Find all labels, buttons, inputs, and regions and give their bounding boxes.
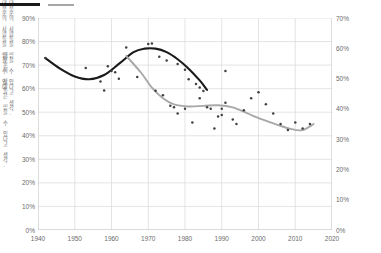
- x-axis-tick: 1950: [62, 235, 88, 242]
- x-axis-tick: 1970: [135, 235, 161, 242]
- data-point: [257, 91, 260, 94]
- y-axis-tick-left: 80%: [13, 38, 35, 45]
- y-axis-title-left: 대부분의 사람들은 믿을 수 있다고 생각.: [1, 52, 7, 202]
- data-point: [209, 107, 212, 110]
- y-axis-tick-right: 10%: [336, 196, 358, 203]
- y-axis-tick-left: 60%: [13, 85, 35, 92]
- y-axis-tick-right: 70%: [336, 15, 358, 22]
- data-point: [202, 90, 205, 93]
- data-point: [107, 65, 110, 68]
- data-point: [158, 56, 161, 59]
- grid-lines: [38, 18, 332, 230]
- data-point: [272, 112, 275, 115]
- y-axis-tick-left: 50%: [13, 109, 35, 116]
- chart-legend: [0, 0, 77, 9]
- legend-swatch-gray: [48, 4, 74, 6]
- y-axis-tick-left: 40%: [13, 132, 35, 139]
- data-point: [103, 89, 106, 92]
- y-axis-tick-left: 10%: [13, 203, 35, 210]
- x-axis-tick: 2010: [282, 235, 308, 242]
- data-point: [301, 127, 304, 130]
- data-point: [243, 109, 246, 112]
- data-point: [195, 83, 198, 86]
- data-point: [217, 115, 220, 118]
- data-point: [224, 70, 227, 73]
- legend-item-black: [0, 3, 43, 6]
- data-point: [110, 70, 113, 73]
- data-point: [162, 94, 165, 97]
- data-point: [184, 108, 187, 111]
- x-axis-tick: 2020: [319, 235, 345, 242]
- x-axis-tick: 2000: [246, 235, 272, 242]
- data-point: [99, 80, 102, 83]
- data-point: [198, 86, 201, 89]
- y-axis-tick-right: 60%: [336, 45, 358, 52]
- data-point: [184, 69, 187, 72]
- data-point: [169, 105, 172, 108]
- data-point: [221, 114, 224, 117]
- data-point: [287, 129, 290, 132]
- plot-svg: [38, 18, 332, 230]
- series-layer: [45, 48, 313, 130]
- y-axis-tick-right: 0%: [336, 227, 358, 234]
- trend-line-trust-black-fit: [45, 48, 207, 90]
- data-point: [147, 43, 150, 46]
- data-point: [206, 106, 209, 109]
- y-axis-tick-left: 30%: [13, 156, 35, 163]
- y-axis-tick-left: 70%: [13, 62, 35, 69]
- data-point: [85, 67, 88, 70]
- trend-line-trust-gray-fit: [126, 56, 313, 131]
- data-point: [265, 103, 268, 106]
- x-axis-tick: 1940: [25, 235, 51, 242]
- data-point: [191, 121, 194, 124]
- data-points: [44, 42, 311, 131]
- data-point: [154, 89, 157, 92]
- data-point: [114, 71, 117, 74]
- data-point: [151, 42, 154, 45]
- data-point: [165, 59, 168, 62]
- data-point: [221, 107, 224, 110]
- data-point: [44, 57, 47, 60]
- data-point: [213, 127, 216, 130]
- y-axis-tick-left: 0%: [13, 227, 35, 234]
- data-point: [125, 46, 128, 49]
- y-axis-tick-right: 50%: [336, 75, 358, 82]
- data-point: [187, 78, 190, 81]
- data-point: [136, 76, 139, 79]
- y-axis-tick-right: 40%: [336, 105, 358, 112]
- data-point: [279, 123, 282, 126]
- data-point: [235, 123, 238, 126]
- data-point: [224, 102, 227, 105]
- data-point: [176, 112, 179, 115]
- legend-item-gray: [48, 4, 77, 6]
- y-axis-tick-left: 20%: [13, 179, 35, 186]
- data-point: [232, 118, 235, 121]
- chart-container: 대부분의 사람들은 믿을 수 있다고 생각. 대부분의 사람들을 믿을 수 있다…: [0, 0, 381, 253]
- data-point: [118, 78, 121, 81]
- data-point: [176, 63, 179, 66]
- x-axis-tick: 1960: [99, 235, 125, 242]
- data-point: [198, 97, 201, 100]
- data-point: [309, 123, 312, 126]
- y-axis-tick-right: 30%: [336, 136, 358, 143]
- plot-area: [38, 18, 332, 230]
- legend-swatch-black: [0, 3, 40, 6]
- y-axis-tick-right: 20%: [336, 166, 358, 173]
- data-point: [294, 121, 297, 124]
- x-axis-tick: 1980: [172, 235, 198, 242]
- data-point: [250, 97, 253, 100]
- data-point: [173, 106, 176, 109]
- y-axis-tick-left: 90%: [13, 15, 35, 22]
- x-axis-tick: 1990: [209, 235, 235, 242]
